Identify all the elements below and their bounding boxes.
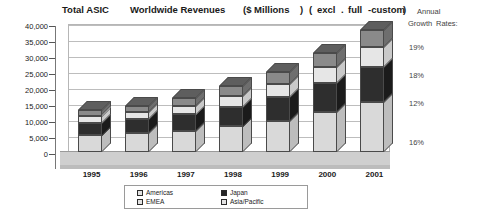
bar-segment-face xyxy=(172,114,196,131)
y-tick-label: 10,000 xyxy=(25,118,48,127)
bar-segment-face xyxy=(125,133,149,152)
bar-segment-face xyxy=(219,86,243,96)
x-axis-labels: 1995199619971998199920002001 xyxy=(60,170,390,184)
bar-segment-face xyxy=(125,119,149,133)
chart-title: Total ASIC Worldwide Revenues ($ Million… xyxy=(0,4,400,20)
bar-segment-face xyxy=(78,116,102,123)
y-tick-label: 20,000 xyxy=(25,86,48,95)
bar-segment-emea xyxy=(172,106,196,115)
bar-segment-face xyxy=(78,110,102,115)
bar-segment-face xyxy=(266,72,290,84)
y-tick-label: 35,000 xyxy=(25,38,48,47)
title-custom: -custom xyxy=(368,4,405,15)
bar-segment-asia xyxy=(266,72,290,84)
x-axis-label: 1998 xyxy=(224,170,242,179)
bar-segment-emea xyxy=(313,67,337,83)
growth-heading-rates: Rates: xyxy=(436,19,458,28)
bar-segment-face xyxy=(266,97,290,121)
title-full: full xyxy=(348,4,362,15)
bar-segment-face xyxy=(172,98,196,106)
bar-segment-japan xyxy=(266,97,290,121)
bar-segment-face xyxy=(313,83,337,112)
x-axis-label: 2001 xyxy=(366,170,384,179)
bar-segment-japan xyxy=(125,119,149,133)
legend-label-emea: EMEA xyxy=(146,198,164,205)
bar-segment-asia xyxy=(78,110,102,115)
bar-segment-emea xyxy=(219,96,243,107)
title-paren-close-1: ) xyxy=(300,4,303,15)
bar-segment-face xyxy=(172,131,196,152)
bar-segment-face xyxy=(125,112,149,119)
title-paren-close-2: ) xyxy=(403,4,406,15)
y-axis-line xyxy=(55,26,56,169)
bar-segment-emea xyxy=(125,112,149,119)
title-dot: . xyxy=(341,4,344,15)
y-axis: 40,00035,00030,00025,00020,00015,00010,0… xyxy=(0,24,60,169)
plot-floor xyxy=(60,151,390,169)
bar-segment-asia xyxy=(360,30,384,47)
bar-segment-japan xyxy=(313,83,337,112)
bar-segment-americas xyxy=(266,121,290,152)
bar-segment-americas xyxy=(78,135,102,152)
bar-segment-americas xyxy=(125,133,149,152)
bar-segment-face xyxy=(360,30,384,47)
title-total-asic: Total ASIC xyxy=(62,4,109,15)
x-axis-label: 1995 xyxy=(83,170,101,179)
plot-floor-front xyxy=(60,165,390,169)
bar-segment-face xyxy=(219,107,243,127)
bar-segment-americas xyxy=(172,131,196,152)
bar-segment-americas xyxy=(313,112,337,152)
x-axis-label: 2000 xyxy=(318,170,336,179)
chart-screenshot: Total ASIC Worldwide Revenues ($ Million… xyxy=(0,0,479,211)
legend-swatch-emea xyxy=(137,199,143,205)
legend-swatch-americas xyxy=(137,190,143,196)
bar-segment-face xyxy=(125,106,149,112)
bar-segment-face xyxy=(313,53,337,67)
bar-segment-face xyxy=(313,112,337,152)
bar-segment-japan xyxy=(78,123,102,136)
gridline xyxy=(69,25,389,26)
bar-segment-americas xyxy=(219,126,243,152)
bar-segment-face xyxy=(360,47,384,67)
x-axis-label: 1997 xyxy=(177,170,195,179)
chart-legend: Americas EMEA Japan Asia/Pacific xyxy=(124,185,308,209)
bar-segment-emea xyxy=(266,84,290,97)
bar-segment-face xyxy=(78,123,102,136)
bar-segment-japan xyxy=(360,67,384,102)
bar-segment-americas xyxy=(360,102,384,152)
legend-label-americas: Americas xyxy=(146,189,173,196)
chart-bar xyxy=(172,98,196,152)
growth-rate-2: 18% xyxy=(409,71,424,80)
chart-bar xyxy=(125,106,149,152)
bar-segment-face xyxy=(78,135,102,152)
bar-segment-face xyxy=(313,67,337,83)
y-tick-label: 30,000 xyxy=(25,54,48,63)
x-axis-label: 1999 xyxy=(271,170,289,179)
legend-swatch-japan xyxy=(221,190,227,196)
growth-rate-4: 16% xyxy=(409,138,424,147)
growth-heading-annual: Annual xyxy=(417,7,440,16)
gridline xyxy=(69,41,389,42)
plot-area xyxy=(60,24,390,169)
growth-rate-3: 12% xyxy=(409,99,424,108)
legend-swatch-asia-pacific xyxy=(221,199,227,205)
title-worldwide-revenues: Worldwide Revenues xyxy=(130,4,225,15)
y-tick-label: 5,000 xyxy=(29,134,48,143)
legend-label-japan: Japan xyxy=(230,189,248,196)
bar-segment-japan xyxy=(219,107,243,127)
bar-segment-face xyxy=(219,96,243,107)
bar-segment-japan xyxy=(172,114,196,131)
y-tick-label: 40,000 xyxy=(25,22,48,31)
bar-segment-face xyxy=(266,121,290,152)
y-tick-label: 15,000 xyxy=(25,102,48,111)
legend-label-asia-pacific: Asia/Pacific xyxy=(230,198,264,205)
title-units: ($ Millions xyxy=(243,4,289,15)
bar-segment-asia xyxy=(313,53,337,67)
y-tick-label: 25,000 xyxy=(25,70,48,79)
chart-bar xyxy=(313,53,337,152)
chart-bar xyxy=(219,86,243,152)
bar-segment-emea xyxy=(78,116,102,123)
chart-bar xyxy=(360,30,384,152)
chart-bar xyxy=(78,110,102,152)
bar-segment-face xyxy=(360,102,384,152)
